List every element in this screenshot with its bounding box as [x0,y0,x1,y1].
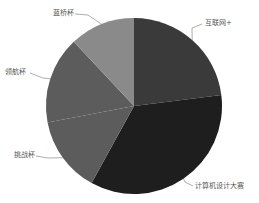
leader-line [30,73,50,79]
leader-line [183,179,193,186]
label-computer-design: 计算机设计大赛 [195,183,244,190]
label-lanqiao-cup: 蓝桥杯 [53,10,74,17]
pie-chart: 蓝桥杯 互联网+ 领航杯 挑战杯 计算机设计大赛 [0,0,259,203]
leader-line [192,24,202,40]
leader-line [75,14,102,24]
label-internet-plus: 互联网+ [205,20,232,27]
label-pilot-cup: 领航杯 [5,69,26,76]
pie-chart-svg [0,0,259,203]
leader-line [36,156,63,158]
pie-slice [134,18,221,106]
label-challenge-cup: 挑战杯 [14,152,35,159]
